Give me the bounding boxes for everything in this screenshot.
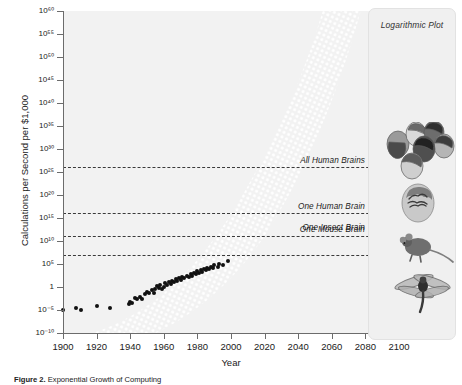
data-point: [221, 263, 225, 267]
mouse-icon: [398, 232, 456, 266]
x-tick-label: 2100: [379, 341, 419, 352]
y-tick-label: 10²⁵: [39, 168, 54, 176]
y-tick-label: 10¹⁵: [39, 214, 54, 222]
x-tick: [164, 334, 165, 339]
y-tick: [57, 241, 63, 242]
y-tick-label: 10⁴⁰: [39, 99, 54, 107]
y-tick: [57, 57, 63, 58]
caption-prefix: Figure 2.: [14, 375, 46, 384]
figure-exponential-growth-of-computing: All Human Brains One Human Brain One Mou…: [0, 0, 462, 385]
data-point: [152, 291, 156, 295]
y-tick: [57, 195, 63, 196]
y-axis-line: [63, 11, 64, 334]
y-tick-label: 10³⁰: [39, 145, 54, 153]
y-tick: [57, 218, 63, 219]
y-tick-label: 10⁻¹⁰: [35, 329, 54, 337]
y-tick: [57, 287, 63, 288]
x-tick: [197, 334, 198, 339]
human-head-brain-icon: [396, 182, 442, 224]
x-tick: [97, 334, 98, 339]
y-tick-label: 10⁵: [42, 260, 54, 268]
caption-text: Exponential Growth of Computing: [46, 375, 162, 384]
y-tick-label: 1: [50, 283, 54, 291]
figure-caption: Figure 2. Exponential Growth of Computin…: [14, 375, 444, 384]
y-tick: [57, 11, 63, 12]
y-tick-label: 10⁵⁰: [39, 53, 54, 61]
y-tick: [57, 264, 63, 265]
x-tick: [365, 334, 366, 339]
y-tick-label: 10⁵⁵: [38, 30, 54, 38]
x-tick: [231, 334, 232, 339]
dragonfly-icon: [392, 268, 454, 314]
data-point: [95, 304, 99, 308]
scatter-series-computing-devices: [63, 11, 399, 333]
y-axis-label: Calculations per Second per $1,000: [19, 51, 30, 291]
y-tick: [57, 172, 63, 173]
data-point: [226, 259, 230, 263]
human-heads-cluster-icon: [382, 122, 458, 182]
y-tick-label: 10¹⁰: [39, 237, 54, 245]
y-tick-label: 10⁻⁵: [38, 306, 54, 314]
y-tick: [57, 310, 63, 311]
x-tick: [130, 334, 131, 339]
x-tick: [265, 334, 266, 339]
data-point: [79, 308, 83, 312]
y-tick-label: 10⁴⁵: [38, 76, 54, 84]
x-tick: [332, 334, 333, 339]
data-point: [108, 306, 112, 310]
y-tick: [57, 126, 63, 127]
panel-title: Logarithmic Plot: [374, 20, 450, 30]
y-tick: [57, 149, 63, 150]
y-tick: [57, 34, 63, 35]
data-point: [140, 297, 144, 301]
x-axis-label: Year: [0, 357, 462, 368]
y-tick-label: 10⁶⁰: [39, 7, 54, 15]
data-point: [147, 291, 151, 295]
y-tick: [57, 80, 63, 81]
y-tick-label: 10³⁵: [39, 122, 54, 130]
data-point: [130, 301, 134, 305]
y-tick-label: 10²⁰: [39, 191, 54, 199]
data-point: [74, 306, 78, 310]
x-tick: [298, 334, 299, 339]
x-tick: [63, 334, 64, 339]
y-tick: [57, 103, 63, 104]
